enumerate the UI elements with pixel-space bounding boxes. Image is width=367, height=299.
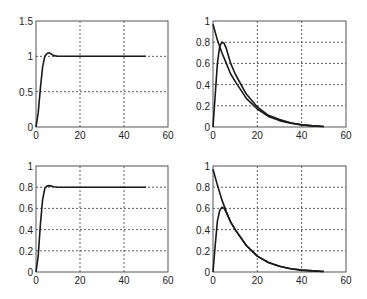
x-tick-label: 20 <box>252 130 264 141</box>
y-tick-label: 0.6 <box>196 58 210 69</box>
series-line-rise-decay <box>213 207 324 272</box>
y-tick-label: 0.8 <box>196 37 210 48</box>
x-tick-label: 20 <box>74 130 86 141</box>
y-tick-label: 1 <box>204 16 210 27</box>
x-tick-label: 0 <box>210 130 216 141</box>
x-tick-label: 40 <box>296 130 308 141</box>
y-tick-label: 0 <box>204 267 210 278</box>
series-line-response <box>36 186 146 272</box>
y-tick-label: 0 <box>204 122 210 133</box>
y-tick-label: 1 <box>27 51 33 62</box>
x-tick-label: 60 <box>162 275 174 286</box>
x-tick-label: 40 <box>118 130 130 141</box>
y-tick-label: 0 <box>27 267 33 278</box>
y-tick-label: 1 <box>204 161 210 172</box>
x-tick-label: 0 <box>33 130 39 141</box>
axes-box <box>213 166 346 272</box>
subplot-4: 020406000.20.40.60.81 <box>196 161 352 286</box>
y-tick-label: 0.4 <box>196 80 210 91</box>
y-tick-label: 0.8 <box>19 182 33 193</box>
y-tick-label: 0.4 <box>196 225 210 236</box>
x-tick-label: 20 <box>74 275 86 286</box>
y-tick-label: 0 <box>27 122 33 133</box>
x-tick-label: 60 <box>340 130 352 141</box>
subplot-1: 020406000.511.5 <box>19 16 174 141</box>
y-tick-label: 0.2 <box>196 101 210 112</box>
y-tick-label: 0.4 <box>19 225 33 236</box>
subplot-2: 020406000.20.40.60.81 <box>196 16 352 141</box>
y-tick-label: 0.2 <box>196 246 210 257</box>
subplot-3: 020406000.20.40.60.81 <box>19 161 174 286</box>
y-tick-label: 0.2 <box>19 246 33 257</box>
chart-figure: 020406000.511.5020406000.20.40.60.810204… <box>0 0 367 299</box>
axes-box <box>36 21 168 127</box>
x-tick-label: 60 <box>340 275 352 286</box>
x-tick-label: 0 <box>33 275 39 286</box>
x-tick-label: 40 <box>296 275 308 286</box>
x-tick-label: 60 <box>162 130 174 141</box>
series-line-decay <box>213 24 324 126</box>
x-tick-label: 0 <box>210 275 216 286</box>
axes-box <box>213 21 346 127</box>
x-tick-label: 40 <box>118 275 130 286</box>
axes-box <box>36 166 168 272</box>
x-tick-label: 20 <box>252 275 264 286</box>
y-tick-label: 0.6 <box>19 203 33 214</box>
y-tick-label: 0.6 <box>196 203 210 214</box>
series-line-response <box>36 53 146 127</box>
y-tick-label: 1 <box>27 161 33 172</box>
y-tick-label: 0.5 <box>19 87 33 98</box>
y-tick-label: 0.8 <box>196 182 210 193</box>
y-tick-label: 1.5 <box>19 16 33 27</box>
